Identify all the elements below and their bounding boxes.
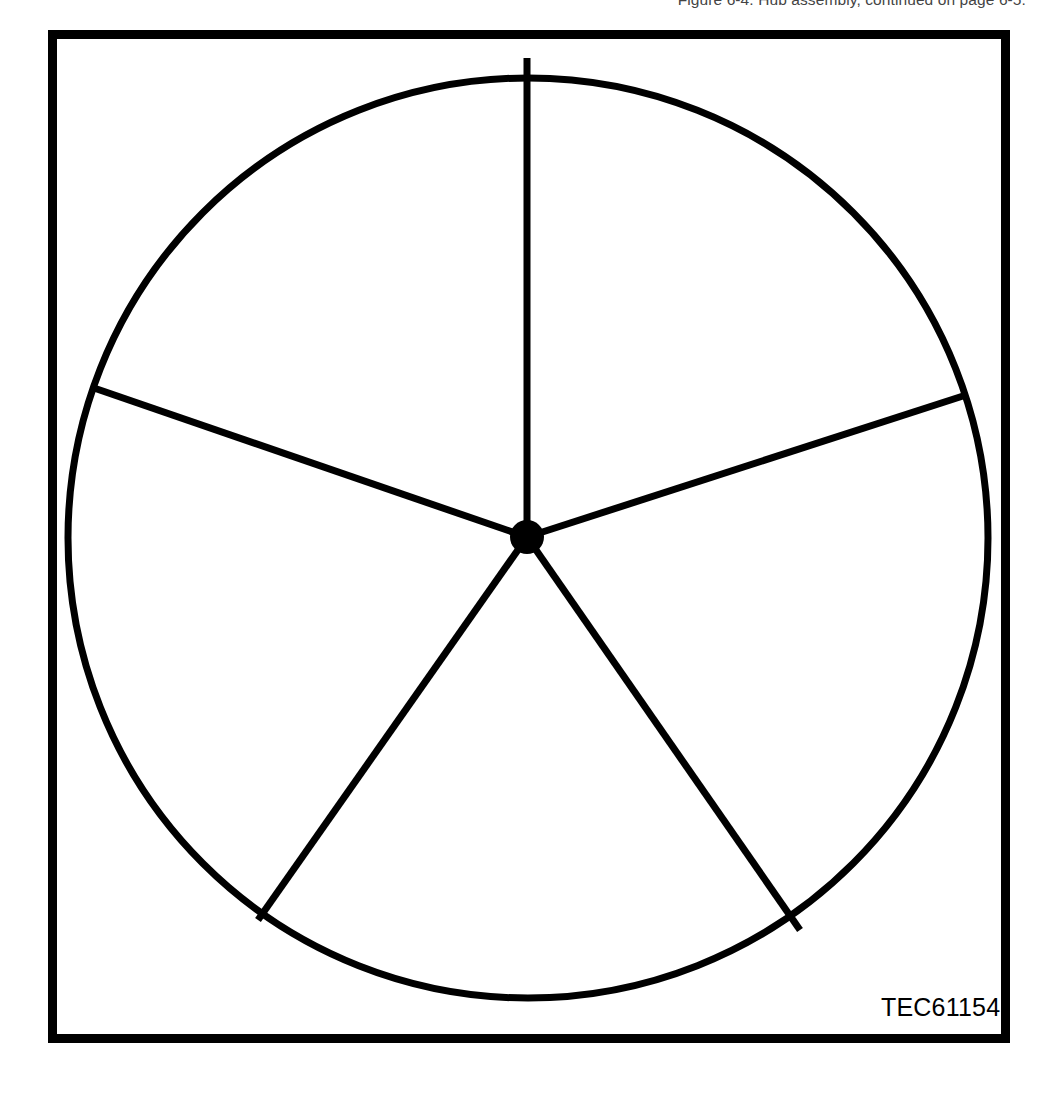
page-running-head: Figure 6-4. Hub assembly, continued on p… <box>0 0 1054 9</box>
figure-frame <box>48 30 1010 1043</box>
part-number-label: TEC61154 <box>881 993 1000 1022</box>
